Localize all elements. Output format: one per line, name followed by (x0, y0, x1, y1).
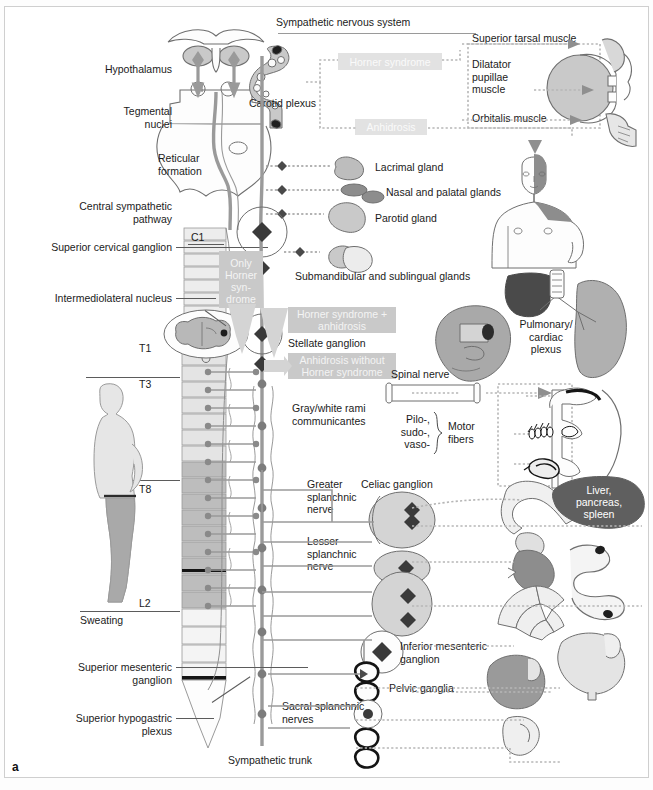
label-central-sympathetic-pathway: Central sympathetic pathway (36, 200, 172, 225)
label-pilo-sudo-vaso: Pilo-, sudo-, vaso- (386, 413, 430, 451)
pelvic-connectors (260, 666, 590, 766)
eye-target-arrows (460, 30, 600, 150)
spinal-level-C1: C1 (191, 231, 204, 244)
box-horner-syndrome-plus-anhidrosis: Horner syndrome + anhidrosis (288, 307, 396, 333)
title-rule (278, 33, 476, 34)
spinal-level-T1: T1 (139, 342, 151, 355)
label-sweating: Sweating (80, 614, 123, 627)
shp-leader (176, 718, 214, 719)
label-reticular-formation: Reticular formation (158, 152, 238, 177)
anhidrosis-body-illustration (488, 150, 618, 280)
label-nasal-palatal-glands: Nasal and palatal glands (386, 186, 536, 199)
only-horner-arrow (222, 304, 262, 360)
label-motor-fibers: Motor fibers (448, 420, 502, 445)
label-liver-pancreas-spleen: Liver, pancreas, spleen (556, 478, 642, 526)
figure-title: Sympathetic nervous system (276, 16, 476, 28)
label-spinal-nerve: Spinal nerve (391, 368, 471, 381)
sweating-silhouette (84, 380, 146, 612)
figure-root: Sympathetic nervous system Hypothalamus (0, 0, 653, 790)
label-hypothalamus: Hypothalamus (60, 63, 172, 76)
t3-rule (86, 377, 180, 378)
label-superior-mesenteric-ganglion: Superior mesenteric ganglion (12, 661, 172, 686)
c1-rule (188, 244, 224, 245)
label-lacrimal-gland: Lacrimal gland (375, 161, 485, 174)
label-parotid-gland: Parotid gland (375, 212, 485, 225)
label-stellate-ganglion: Stellate ganglion (288, 337, 398, 350)
box-anhidrosis-without-horner-syndrome: Anhidrosis without Horner syndrome (288, 353, 396, 379)
label-superior-hypogastric-plexus: Superior hypogastric plexus (12, 712, 172, 737)
iml-leader (176, 298, 216, 299)
box-only-horner-syndrome: Only Horner syn- drome (219, 251, 263, 308)
label-intermediolateral-nucleus: Intermediolateral nucleus (14, 292, 172, 305)
motor-fibers-brace (432, 412, 446, 454)
label-tegmental-nuclei: Tegmental nuclei (60, 105, 172, 130)
label-superior-cervical-ganglion: Superior cervical ganglion (18, 241, 172, 254)
label-pulmonary-cardiac-plexus: Pulmonary/ cardiac plexus (508, 318, 584, 356)
anhidrosis-only-arrow (262, 356, 292, 386)
panel-letter: a (12, 760, 19, 774)
